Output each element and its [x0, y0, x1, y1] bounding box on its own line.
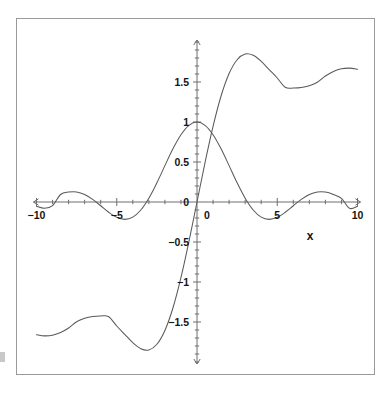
y-tick-label: −1.5 — [168, 316, 189, 328]
y-tick-label: 0.5 — [174, 156, 189, 168]
y-tick-label: −1 — [177, 276, 189, 288]
function-plot: −10−505101.510.50−0.5−1−1.5x — [0, 0, 390, 394]
y-tick-label: 0 — [183, 196, 189, 208]
x-tick-label: −5 — [111, 209, 123, 221]
y-tick-label: −0.5 — [168, 236, 189, 248]
y-tick-label: 1.5 — [174, 76, 189, 88]
x-tick-label: 5 — [274, 209, 280, 221]
x-tick-label: 10 — [352, 209, 364, 221]
x-tick-label: −10 — [28, 209, 46, 221]
x-axis-label: x — [307, 229, 314, 243]
chart-root: −10−505101.510.50−0.5−1−1.5x — [0, 0, 390, 394]
y-tick-label: 1 — [183, 116, 189, 128]
x-tick-label: 0 — [204, 209, 210, 221]
